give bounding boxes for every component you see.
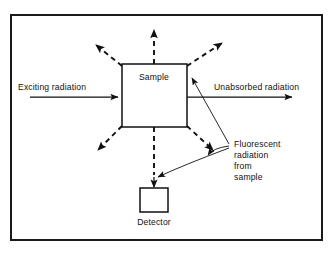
fluorescence-ray-up-left — [96, 45, 122, 66]
detector-label: Detector — [137, 217, 171, 227]
fluorescence-ray-down-right — [187, 126, 213, 150]
fluorescence-diagram-figure: Sample Detector Exciting radiation Unabs… — [0, 0, 334, 253]
leader-line-to-detector-ray — [158, 148, 229, 177]
detector-box — [140, 188, 168, 212]
fluorescence-ray-up-right — [187, 43, 222, 66]
sample-label: Sample — [139, 72, 169, 82]
leader-line-to-lower-right-ray — [208, 146, 229, 155]
callout-line-2: from — [234, 161, 252, 171]
diagram-canvas: Sample Detector Exciting radiation Unabs… — [0, 0, 334, 253]
callout-line-0: Fluorescent — [234, 139, 281, 149]
exciting-radiation-label: Exciting radiation — [18, 82, 86, 92]
callout-line-1: radiation — [234, 150, 268, 160]
fluorescence-ray-down-left — [98, 126, 122, 150]
unabsorbed-radiation-label: Unabsorbed radiation — [214, 82, 299, 92]
callout-line-3: sample — [234, 172, 263, 182]
fluorescent-radiation-callout-label: Fluorescentradiationfromsample — [234, 139, 281, 182]
